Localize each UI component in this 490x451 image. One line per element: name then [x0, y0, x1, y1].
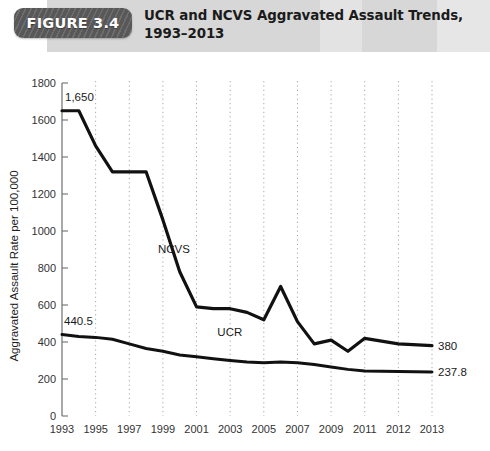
figure-number-badge: FIGURE 3.4	[14, 8, 132, 38]
figure-title-line-2: 1993–2013	[144, 25, 474, 43]
y-tick-label-800: 800	[38, 262, 56, 274]
y-tick-label-1800: 1800	[32, 77, 56, 89]
figure-title-line-1: UCR and NCVS Aggravated Assault Trends,	[144, 7, 474, 25]
x-tick-label-2003: 2003	[218, 423, 242, 435]
data-series	[62, 111, 432, 372]
x-tick-label-2007: 2007	[285, 423, 309, 435]
grid-lines	[96, 81, 432, 416]
y-tick-label-600: 600	[38, 299, 56, 311]
chart-container: Aggravated Assault Rate per 100,000 0200…	[0, 56, 490, 451]
y-tick-label-1400: 1400	[32, 151, 56, 163]
y-tick-label-200: 200	[38, 373, 56, 385]
x-tick-label-2011: 2011	[353, 423, 377, 435]
x-tick-label-2012: 2012	[386, 423, 410, 435]
y-tick-label-400: 400	[38, 336, 56, 348]
x-axis-ticks: 1993199519971999200120032005200720092011…	[50, 423, 444, 435]
ucr-start-value-label: 440.5	[64, 315, 93, 327]
series-label-ncvs: NCVS	[158, 243, 190, 255]
series-annotations: NCVSUCR1,650440.5380237.8	[64, 91, 467, 378]
x-tick-label-2001: 2001	[184, 423, 208, 435]
x-tick-label-2005: 2005	[252, 423, 276, 435]
y-tick-label-1000: 1000	[32, 225, 56, 237]
x-tick-label-1993: 1993	[50, 423, 74, 435]
y-tick-label-1200: 1200	[32, 188, 56, 200]
x-tick-label-1995: 1995	[83, 423, 107, 435]
x-tick-label-2013: 2013	[420, 423, 444, 435]
line-chart: Aggravated Assault Rate per 100,000 0200…	[0, 56, 490, 451]
figure-title: UCR and NCVS Aggravated Assault Trends, …	[144, 7, 474, 43]
ncvs-end-value-label: 380	[438, 340, 457, 352]
ucr-end-value-label: 237.8	[438, 366, 467, 378]
figure-header: FIGURE 3.4 UCR and NCVS Aggravated Assau…	[0, 0, 490, 56]
x-tick-label-1997: 1997	[117, 423, 141, 435]
y-axis-title: Aggravated Assault Rate per 100,000	[8, 170, 20, 361]
x-tick-label-1999: 1999	[151, 423, 175, 435]
x-tick-label-2009: 2009	[319, 423, 343, 435]
ncvs-start-value-label: 1,650	[65, 91, 94, 103]
y-tick-label-1600: 1600	[32, 114, 56, 126]
y-tick-label-0: 0	[50, 410, 56, 422]
figure-number-label: FIGURE 3.4	[14, 8, 132, 38]
series-label-ucr: UCR	[217, 326, 242, 338]
series-line-ncvs	[62, 111, 432, 352]
